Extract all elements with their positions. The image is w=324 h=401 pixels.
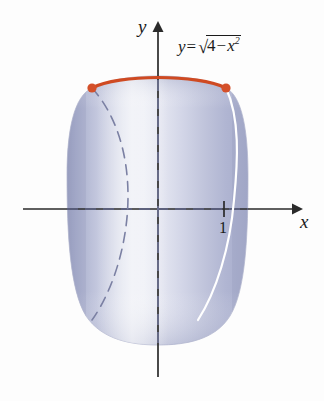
solid-body-left-shadow (60, 70, 86, 360)
equation-lhs: y (178, 37, 186, 56)
equation-label: y=√4−x2 (178, 36, 241, 57)
equation-radicand: 4−x2 (206, 35, 241, 56)
y-axis-arrowhead (153, 21, 164, 32)
radicand-lead: 4 (207, 36, 216, 55)
x-tick-label-1: 1 (219, 219, 227, 237)
radicand-minus: − (216, 36, 228, 55)
right-endpoint-dot (221, 83, 230, 92)
solid-body-right-shadow (232, 70, 254, 360)
y-axis-label: y (138, 16, 146, 38)
equation-radical: √4−x2 (197, 36, 241, 57)
radicand-variable: x (227, 36, 235, 55)
radicand-exponent: 2 (235, 35, 240, 46)
figure-container: y=√4−x2 y x 1 (0, 0, 324, 401)
left-endpoint-dot (87, 83, 96, 92)
solid-body-group (60, 70, 254, 360)
equation-operator: = (186, 37, 198, 56)
x-axis-label: x (300, 211, 308, 233)
solid-of-revolution-figure (0, 0, 324, 401)
